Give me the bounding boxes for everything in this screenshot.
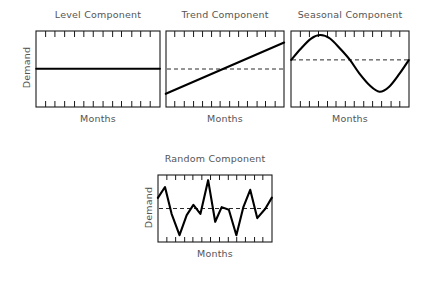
plot-area-random [154,171,276,246]
x-axis-label-seasonal: Months [261,113,429,124]
panel-title-seasonal: Seasonal Component [261,9,429,20]
panel-random: Random ComponentMonthsDemand [128,153,302,266]
panel-seasonal: Seasonal ComponentMonths [261,9,429,131]
y-axis-label-level: Demand [21,40,32,96]
y-axis-label-random: Demand [143,179,154,235]
panel-title-random: Random Component [128,153,302,164]
x-axis-label-random: Months [128,248,302,259]
time-series-components-figure: Level ComponentMonthsDemandTrend Compone… [0,0,429,282]
plot-frame-seasonal [291,31,409,107]
plot-area-seasonal [287,27,413,111]
